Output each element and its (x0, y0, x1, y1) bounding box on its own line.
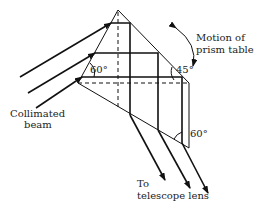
angle-right-label: 45° (176, 64, 194, 75)
rotation-arrow-icon (176, 28, 194, 66)
collimated-beam-label-2: beam (24, 119, 52, 130)
collimated-beam-label-1: Collimated (10, 108, 66, 119)
internal-beams (82, 23, 182, 143)
telescope-label-1: To (137, 178, 149, 189)
telescope-label-2: telescope lens (137, 190, 209, 201)
dashed-reference-lines (78, 12, 189, 110)
prism-diagram: 60° 45° 60° Collimated beam Motion of pr… (0, 0, 258, 209)
motion-label-1: Motion of (196, 32, 246, 43)
angle-left-label: 60° (90, 64, 108, 75)
motion-label-2: prism table (196, 44, 254, 55)
prism-outline (78, 10, 189, 148)
angle-bottom-label: 60° (190, 128, 208, 139)
